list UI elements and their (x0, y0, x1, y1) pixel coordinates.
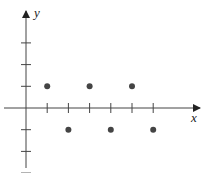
data-point (87, 83, 93, 89)
y-axis-label: y (32, 5, 40, 20)
x-axis-label: x (190, 110, 197, 125)
data-point (150, 127, 156, 133)
data-point (129, 83, 135, 89)
data-point (108, 127, 114, 133)
data-point (44, 83, 50, 89)
scatter-plot: y x (0, 0, 201, 173)
data-point (65, 127, 71, 133)
